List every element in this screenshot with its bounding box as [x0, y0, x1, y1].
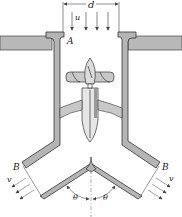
- diameter-label: d: [88, 0, 94, 10]
- section-a-label: A: [66, 36, 74, 46]
- flow-splitter: [86, 157, 96, 172]
- angle-right-label: θ: [103, 193, 108, 202]
- outlet-right-section: [140, 166, 159, 197]
- section-b-left-label: B: [12, 162, 20, 172]
- y-pipe-diagram: d u A B B v v θ θ: [0, 0, 182, 217]
- outlet-velocity-right-label: v: [169, 174, 174, 183]
- pipe-wall-left: [22, 32, 92, 199]
- section-b-right-label: B: [161, 162, 169, 172]
- floor-slab: [0, 36, 182, 50]
- outlet-flow-arrows-left: [12, 178, 34, 199]
- propeller: [66, 58, 114, 142]
- outlet-flow-arrows-right: [148, 178, 170, 199]
- inlet-velocity-label: u: [75, 13, 80, 22]
- pipe-wall-right: [90, 32, 160, 199]
- angle-left-label: θ: [73, 193, 78, 202]
- outlet-velocity-left-label: v: [7, 175, 12, 184]
- outlet-left-section: [23, 166, 42, 197]
